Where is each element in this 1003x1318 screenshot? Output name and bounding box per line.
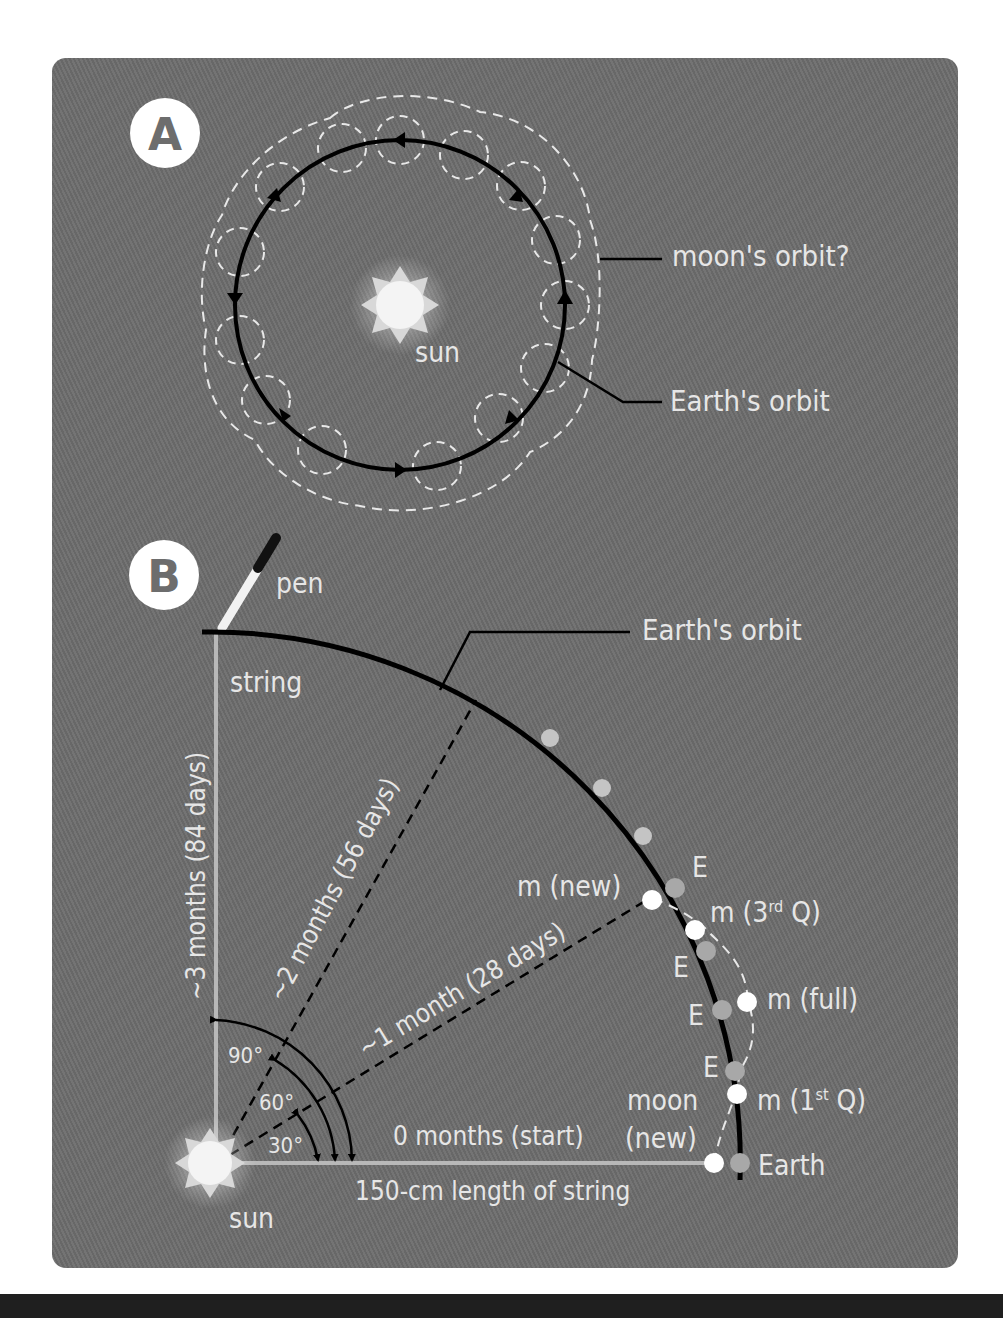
sun-label-b: sun [229, 1202, 274, 1235]
m-new-label: m (new) [517, 870, 621, 903]
sun-icon-b [164, 1117, 256, 1209]
m-third-q-label: m (3rd Q) [710, 896, 821, 929]
e-label-4: E [703, 1051, 719, 1084]
earth-orbit-label-b: Earth's orbit [642, 613, 802, 647]
moon-start-label-line2: (new) [625, 1122, 697, 1155]
panel-a: A [130, 96, 849, 510]
panel-b: B pen string Earth's orbit 90° 60° 30° [129, 538, 866, 1235]
one-month-label: ~1 month (28 days) [353, 916, 571, 1063]
angle-30-label: 30° [268, 1133, 303, 1158]
badge-b: B [129, 540, 199, 610]
pen-label: pen [276, 567, 323, 600]
moon-orbit-label: moon's orbit? [672, 239, 849, 273]
badge-b-label: B [147, 551, 181, 602]
badge-a-label: A [148, 109, 182, 160]
e-label-3: E [688, 999, 704, 1032]
string-length-label: 150-cm length of string [355, 1176, 630, 1206]
e-label-1: E [692, 851, 708, 884]
angle-60-label: 60° [259, 1090, 294, 1115]
diagram-canvas: A [0, 0, 1003, 1318]
string-label: string [230, 666, 302, 699]
earth-label: Earth [758, 1149, 826, 1182]
sun-label-a: sun [415, 336, 460, 369]
two-months-label: ~2 months (56 days) [262, 773, 405, 1006]
orbit-marker-dots [541, 729, 652, 845]
pen-icon [218, 538, 276, 633]
three-months-label: ~3 months (84 days) [181, 752, 211, 1000]
earth-orbit-leader-a [558, 362, 662, 402]
e-label-2: E [673, 951, 689, 984]
m-first-q-label: m (1st Q) [757, 1084, 866, 1117]
zero-months-label: 0 months (start) [393, 1121, 584, 1151]
angle-90-label: 90° [228, 1043, 263, 1068]
earth-orbit-label-a: Earth's orbit [670, 384, 830, 418]
moon-start-label-line1: moon [627, 1084, 698, 1117]
m-full-label: m (full) [767, 983, 858, 1016]
badge-a: A [130, 98, 200, 168]
earth-orbit-leader-b [440, 632, 630, 690]
